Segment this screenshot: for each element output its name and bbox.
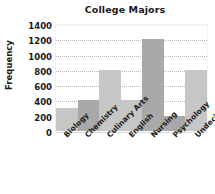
chart-title: College Majors xyxy=(40,4,210,15)
y-axis-tick-label: 1200 xyxy=(28,36,52,46)
y-axis-tick-label: 1000 xyxy=(28,52,52,62)
y-axis-tick-label: 200 xyxy=(34,113,52,123)
x-axis-tick-labels: BiologyChemistryCulinary ArtsEnglishNurs… xyxy=(55,133,208,191)
y-axis-label: Frequency xyxy=(4,35,14,95)
y-axis-tick-label: 600 xyxy=(34,82,52,92)
y-axis-tick-label: 1400 xyxy=(28,21,52,31)
y-axis-tick-label: 400 xyxy=(34,97,52,107)
y-axis-tick-label: 0 xyxy=(46,128,52,138)
bar-chart: College Majors Frequency 020040060080010… xyxy=(0,0,215,194)
y-axis-tick-label: 800 xyxy=(34,67,52,77)
bar-slot xyxy=(56,25,78,131)
